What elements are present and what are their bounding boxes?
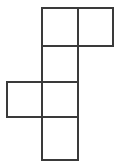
- cube-net-diagram: Cube net (hexomino) Six unit squares joi…: [0, 0, 123, 166]
- square-r3c1: [7, 82, 42, 117]
- square-r1c3: [78, 8, 113, 46]
- square-r2c2: [42, 46, 78, 82]
- square-r4c2: [42, 117, 78, 160]
- square-r3c2: [42, 82, 78, 117]
- square-r1c2: [42, 8, 78, 46]
- cube-net-figure: Cube net (hexomino) Six unit squares joi…: [0, 0, 123, 166]
- net-squares-group: [7, 8, 113, 160]
